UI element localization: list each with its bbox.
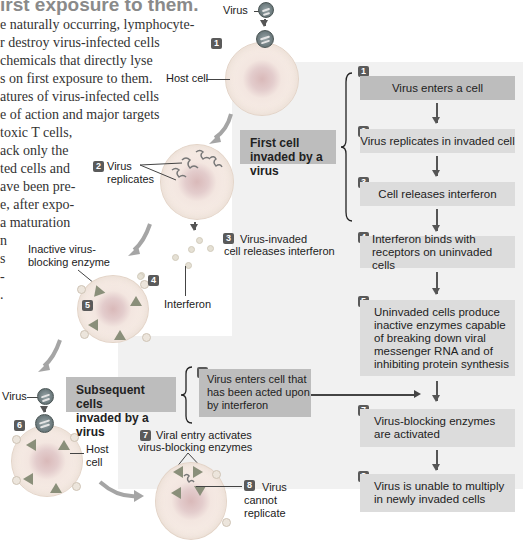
interferon-dot: [188, 246, 195, 253]
inactive-enzyme-label-line1: Inactive virus-: [28, 243, 96, 256]
body-text-line: atures of virus-infected cells: [0, 89, 159, 105]
body-text-line: toxic T cells,: [0, 125, 72, 141]
interferon-dot: [137, 273, 144, 280]
step-8-box: Virus is unable to multiply in newly inv…: [360, 474, 515, 512]
section-heading: irst exposure to them.: [0, 0, 199, 16]
enzyme-triangle-icon: [88, 319, 98, 331]
enzyme-triangle-icon: [50, 483, 62, 493]
first-cell-label-line2: invaded by a virus: [250, 150, 326, 178]
step-badge-3: 3: [223, 233, 234, 244]
step-4-text-line1: Interferon binds with: [372, 233, 515, 246]
flow-arrow: [436, 156, 438, 176]
virus-attached-icon: [35, 414, 54, 433]
step-6-text-line1: Virus enters cell that: [207, 373, 310, 386]
body-text-line: n: [0, 233, 7, 249]
virus-label-top: Virus: [223, 4, 248, 17]
step-8-text-line2: in newly invaded cells: [374, 493, 504, 506]
virus-attached-icon: [256, 30, 274, 48]
host-cell-label-top: Host cell: [166, 72, 208, 85]
step-5-text-line2: inactive enzymes capable: [374, 319, 509, 332]
enzyme-triangle-icon: [58, 440, 70, 450]
step-6-connector-line: [311, 394, 416, 396]
interferon-dot: [196, 237, 203, 244]
receptor-knob: [72, 482, 81, 491]
step-badge-7-illustration: 7: [140, 430, 151, 441]
body-text-line: s: [0, 251, 5, 267]
virus-rna-squiggle-icon: [182, 472, 196, 488]
curved-arrow-icon: [205, 112, 235, 146]
interferon-dot: [207, 245, 214, 252]
entry-arrow: [44, 406, 46, 412]
interferon-dot: [185, 262, 192, 269]
subsequent-cells-label-line2: invaded by a virus: [76, 411, 166, 439]
flow-arrow: [436, 381, 438, 401]
step-4-box: Interferon binds with receptors on uninv…: [360, 236, 515, 268]
step-badge-8-illustration: 8: [244, 480, 255, 491]
step-2-text: Virus replicates in invaded cell: [360, 135, 514, 148]
enzyme-triangle-icon: [114, 330, 126, 340]
receptor-knob: [80, 330, 89, 339]
step-8-text-line1: Virus is unable to multiply: [374, 480, 504, 493]
curved-arrow-icon: [98, 478, 146, 506]
step-5-text-line3: of breaking down viral: [374, 332, 509, 345]
step-5-text-line4: messenger RNA and of: [374, 345, 509, 358]
host-cell-leader-line: [206, 79, 230, 80]
curved-arrow-icon: [126, 222, 156, 258]
first-cell-label: First cell invaded by a virus: [240, 130, 336, 164]
interferon-dot: [172, 254, 179, 261]
step-8-illustration-label-line1: Virus: [262, 481, 287, 494]
subsequent-cells-label: Subsequent cells invaded by a virus: [66, 377, 176, 412]
body-text-line: e, after expo-: [0, 197, 74, 213]
subsequent-cells-label-line1: Subsequent cells: [76, 383, 166, 411]
body-text-line: a maturation: [0, 215, 70, 231]
body-text-line: ted cells and: [0, 161, 70, 177]
step-3-label-line2: cell releases interferon: [224, 245, 335, 258]
active-enzyme-triangle-icon: [171, 487, 181, 499]
receptor-knob: [222, 518, 231, 527]
body-text-line: s on first exposure to them.: [0, 71, 152, 87]
first-cell-label-line1: First cell: [250, 136, 326, 150]
step-badge-6-illustration: 6: [14, 420, 25, 431]
step-5-text-line5: inhibiting protein synthesis: [374, 358, 509, 371]
body-text-line: e naturally occurring, lymphocyte-: [0, 17, 194, 33]
receptor-knob: [12, 435, 21, 444]
curved-arrow-icon: [34, 338, 64, 374]
host-cell-1: [225, 42, 299, 116]
step-badge-5: 5: [82, 300, 93, 311]
step-6-box: Virus enters cell that has been acted up…: [199, 369, 311, 417]
body-text-line: e of action and major targets: [0, 107, 160, 123]
flow-arrow: [436, 272, 438, 294]
interferon-label: Interferon: [164, 298, 211, 311]
step-badge-4: 4: [148, 275, 159, 286]
enzyme-triangle-icon: [23, 473, 33, 485]
receptor-knob: [142, 333, 151, 342]
step-6-text-line2: has been acted upon: [207, 386, 310, 399]
step-5-text-line1: Uninvaded cells produce: [374, 306, 509, 319]
step-7-text-line1: Virus-blocking enzymes: [374, 415, 495, 428]
step-6-connector-arrowhead: [414, 390, 421, 398]
step-4-text-line2: receptors on uninvaded cells: [372, 246, 515, 272]
brace-icon: [340, 72, 354, 222]
flow-arrow: [436, 209, 438, 231]
virus-particle-icon: [37, 388, 54, 405]
virus-cannot-replicate-leader: [196, 486, 242, 487]
step-5-box: Uninvaded cells produce inactive enzymes…: [360, 300, 515, 376]
interferon-leader-line: [185, 266, 186, 296]
entry-arrow: [264, 19, 266, 26]
flow-arrow: [436, 450, 438, 470]
body-text-line: r destroy virus-infected cells: [0, 35, 160, 51]
brace-icon: [180, 366, 194, 424]
enzyme-triangle-icon: [130, 296, 142, 306]
step-3-box: Cell releases interferon: [360, 182, 515, 206]
step-3-text: Cell releases interferon: [378, 188, 496, 201]
body-text-line: .: [0, 287, 4, 303]
host-cell-label-bottom-line2: cell: [86, 456, 103, 469]
step-6-text-line3: by interferon: [207, 399, 310, 412]
flow-arrow: [436, 103, 438, 123]
body-text-line: ave been pre-: [0, 179, 75, 195]
virus-label-bottom: Virus: [2, 390, 27, 403]
step-7-box: Virus-blocking enzymes are activated: [360, 409, 515, 447]
replicates-leader-lines: [140, 160, 190, 182]
step-1-box: Virus enters a cell: [360, 76, 515, 100]
body-text-line: ack only the: [0, 143, 68, 159]
